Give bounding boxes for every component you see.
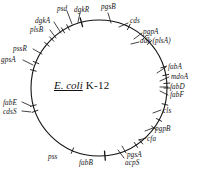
- gene-label-cfa: cfa: [147, 136, 156, 144]
- leader-line-cls: [153, 110, 161, 113]
- leader-line-gpsa: [23, 60, 33, 65]
- leader-line-fabe: [22, 102, 31, 106]
- gene-label-pgpa: pgpA: [143, 29, 159, 37]
- gene-label-plsb: plsB: [30, 27, 43, 35]
- gene-label-fabf: fabF: [170, 92, 184, 100]
- gene-label-fabb: fabB: [79, 160, 93, 168]
- gene-label-pgsb: pgsB: [101, 4, 116, 12]
- gene-label-cdss: cdsS: [3, 109, 17, 117]
- gene-label-mdoa: mdoA: [171, 74, 188, 82]
- genetic-map-figure: pgsBcdspgpAadk (plsA)fabAmdoAfabDfabFcls…: [0, 0, 199, 175]
- gene-tick-mdoa: [163, 74, 169, 75]
- gene-label-cds: cds: [130, 18, 140, 26]
- leader-line-pssr: [33, 49, 42, 54]
- gene-label-pssr: pssR: [13, 46, 27, 54]
- gene-label-psd: psd: [57, 6, 67, 14]
- gene-label-pgpb: pgpB: [155, 126, 171, 134]
- leader-line-psd: [67, 11, 72, 24]
- organism-title: E. coliK-12: [54, 79, 110, 91]
- gene-label-faba: fabA: [168, 64, 182, 72]
- gene-label-dgka: dgkA: [35, 18, 50, 26]
- leader-line-pgsb: [108, 13, 111, 23]
- gene-label-fabe: fabE: [3, 100, 17, 108]
- gene-tick-psd: [61, 28, 64, 33]
- leader-line-mdoa: [160, 77, 169, 81]
- leader-line-dgka: [54, 22, 61, 33]
- gene-label-dgkr: dgkR: [74, 7, 89, 15]
- gene-label-adk-plsa-: adk (plsA): [140, 38, 171, 46]
- gene-label-cls: cls: [163, 108, 171, 116]
- gene-label-pss: pss: [48, 154, 58, 162]
- gene-tick-fabb: [105, 151, 106, 160]
- leader-line-plsb: [50, 30, 56, 38]
- gene-label-acps: acpS: [125, 160, 139, 168]
- gene-label-gpsa: gpsA: [1, 57, 16, 65]
- leader-line-cdss: [22, 111, 31, 112]
- organism-species: E. coli: [54, 79, 83, 91]
- gene-tick-acps: [134, 143, 137, 148]
- leader-line-adk: [131, 42, 139, 44]
- organism-strain: K-12: [83, 79, 110, 91]
